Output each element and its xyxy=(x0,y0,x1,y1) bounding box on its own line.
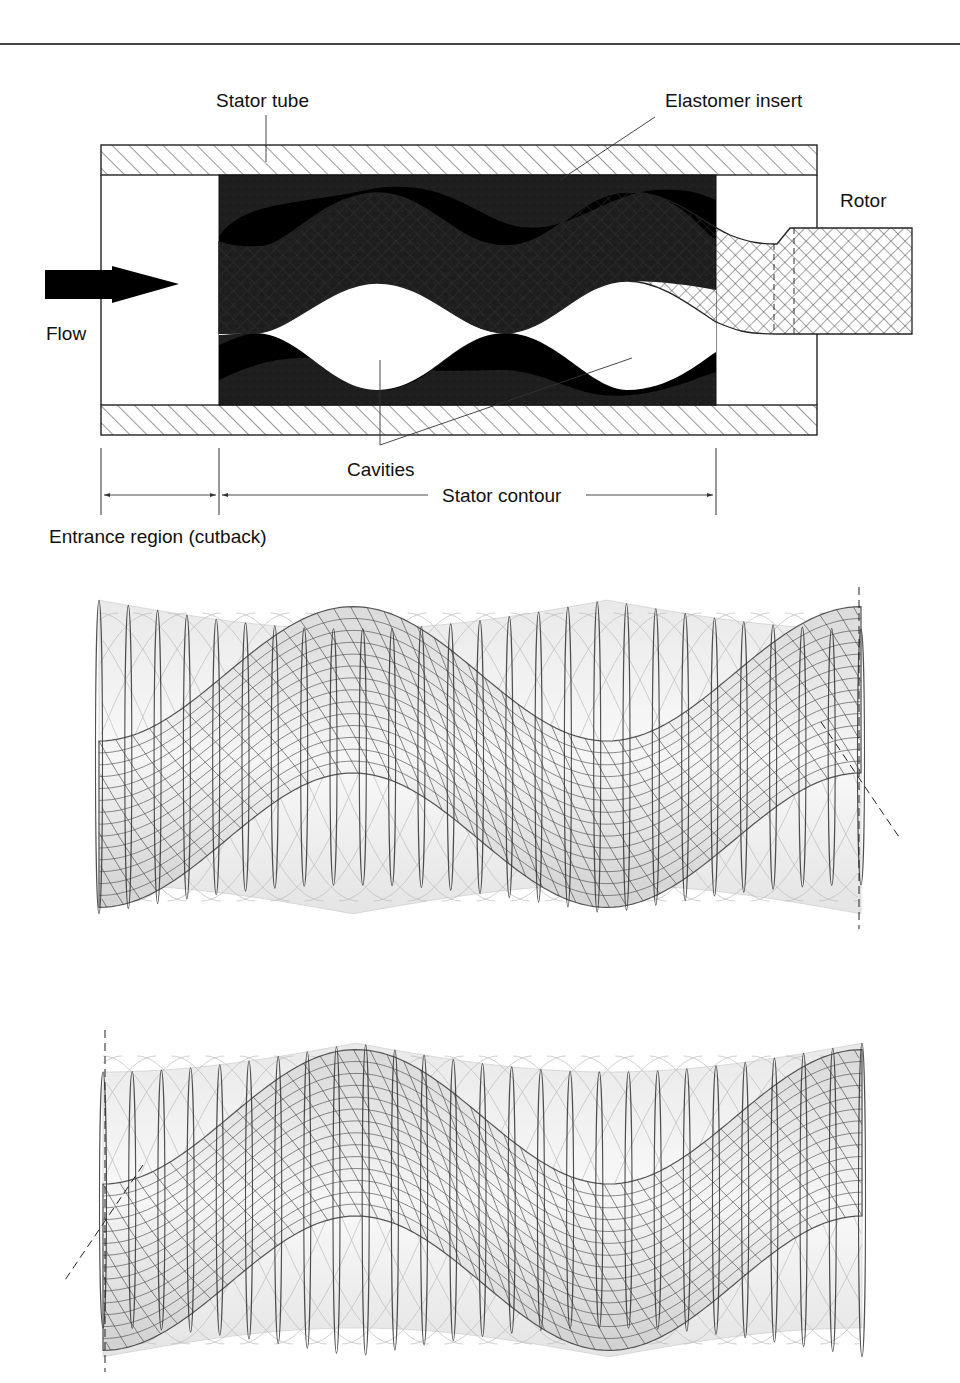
label-stator-tube: Stator tube xyxy=(216,90,309,111)
figure: Stator tube Elastomer insert Rotor Flow … xyxy=(0,0,960,1383)
flow-arrow-icon xyxy=(45,266,179,303)
label-elastomer-insert: Elastomer insert xyxy=(665,90,803,111)
cross-section-diagram: Stator tube Elastomer insert Rotor Flow … xyxy=(45,90,912,547)
label-entrance-region: Entrance region (cutback) xyxy=(49,526,267,547)
wireframe-view-2 xyxy=(65,1030,866,1372)
wireframe-view-1 xyxy=(96,587,900,929)
label-flow: Flow xyxy=(46,323,86,344)
stator-tube-bottom xyxy=(101,405,817,435)
label-rotor: Rotor xyxy=(840,190,887,211)
label-cavities: Cavities xyxy=(347,459,415,480)
label-stator-contour: Stator contour xyxy=(442,485,562,506)
stator-tube-top xyxy=(101,145,817,175)
